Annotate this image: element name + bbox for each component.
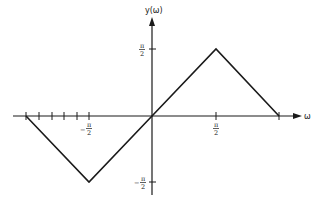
svg-text:π: π: [214, 121, 219, 129]
svg-text:π: π: [140, 42, 145, 50]
svg-text:π: π: [87, 121, 92, 129]
y-axis-label: y(ω): [145, 6, 163, 15]
svg-text:π: π: [141, 175, 146, 183]
svg-text:−: −: [80, 126, 85, 134]
svg-text:2: 2: [140, 50, 144, 58]
x-axis-arrow-icon: [293, 113, 302, 119]
y-tick-label-pi-half: π 2: [139, 42, 145, 58]
svg-text:2: 2: [141, 183, 145, 191]
x-tick-label-neg-pi-half: − π 2: [80, 121, 92, 137]
svg-text:2: 2: [87, 129, 91, 137]
x-axis-label: ω: [304, 112, 311, 121]
y-tick-label-neg-pi-half: − π 2: [134, 175, 146, 191]
svg-text:2: 2: [214, 129, 218, 137]
x-tick-label-pi-half: π 2: [213, 121, 219, 137]
y-axis-arrow-icon: [149, 17, 155, 26]
svg-text:−: −: [134, 179, 139, 187]
chart: y(ω) ω − π 2 π 2 π 2 − π 2: [0, 0, 316, 206]
